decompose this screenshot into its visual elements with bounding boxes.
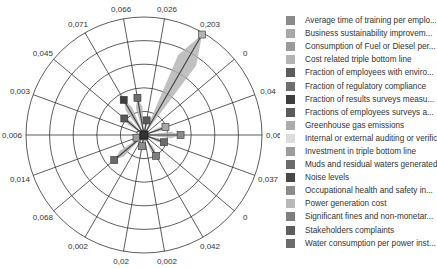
legend-swatch-icon (286, 186, 295, 195)
data-point-marker[interactable] (143, 117, 150, 124)
legend-item[interactable]: Greenhouse gas emissions (286, 119, 430, 132)
spoke-label: 0,071 (68, 20, 89, 29)
legend-label: Water consumption per power inst... (305, 239, 436, 248)
data-point-marker[interactable] (121, 115, 128, 122)
spoke-label: 0,066 (111, 5, 132, 14)
legend-label: Muds and residual waters generated (305, 160, 437, 169)
data-point-marker[interactable] (177, 132, 184, 139)
data-point-marker[interactable] (160, 139, 167, 146)
center-marker (140, 131, 148, 139)
legend-label: Noise levels (305, 173, 349, 182)
spoke-label: 0 (243, 213, 248, 222)
legend-label: Power generation cost (305, 199, 386, 208)
data-point-marker[interactable] (120, 96, 127, 103)
legend-swatch-icon (286, 121, 295, 130)
spoke-label: 0,064 (266, 131, 280, 140)
legend-swatch-icon (286, 147, 295, 156)
legend-swatch-icon (286, 108, 295, 117)
legend-item[interactable]: Stakeholders complaints (286, 224, 430, 237)
legend-label: Fraction of employees with enviro... (305, 68, 434, 77)
legend-swatch-icon (286, 68, 295, 77)
spoke-label: 0,003 (10, 87, 31, 96)
legend-label: Internal or external auditing or verific (305, 134, 437, 143)
grid-spoke (144, 135, 234, 211)
legend-item[interactable]: Significant fines and non-monetar... (286, 210, 430, 223)
legend-item[interactable]: Consumption of Fuel or Diesel per... (286, 40, 430, 53)
spoke-label: 0,02 (113, 257, 129, 266)
legend-swatch-icon (286, 29, 295, 38)
legend-item[interactable]: Occupational health and safety in... (286, 184, 430, 197)
data-point-marker[interactable] (139, 143, 146, 150)
legend-item[interactable]: Business sustainability improvem... (286, 27, 430, 40)
spoke-label: 0,203 (200, 20, 221, 29)
legend-label: Average time of training per emplo... (305, 16, 437, 25)
legend-swatch-icon (286, 55, 295, 64)
spoke-label: 0,037 (258, 175, 279, 184)
legend-swatch-icon (286, 226, 295, 235)
legend-swatch-icon (286, 239, 295, 248)
legend-item[interactable]: Fraction of employees with enviro... (286, 66, 430, 79)
legend-swatch-icon (286, 212, 295, 221)
legend-label: Business sustainability improvem... (305, 29, 432, 38)
data-point-marker[interactable] (162, 124, 169, 131)
spoke-label: 0,04 (260, 87, 276, 96)
legend-label: Significant fines and non-monetar... (305, 212, 433, 221)
spoke-label: 0,002 (157, 257, 178, 266)
radar-chart: 0,0640,0400,2030,0260,0660,0710,0450,003… (0, 0, 280, 268)
legend-item[interactable]: Power generation cost (286, 197, 430, 210)
legend-item[interactable]: Water consumption per power inst... (286, 237, 430, 250)
legend-item[interactable]: Fractions of employees surveys a... (286, 106, 430, 119)
spoke-label: 0,002 (68, 242, 89, 251)
data-point-marker[interactable] (153, 152, 160, 159)
legend-item[interactable]: Internal or external auditing or verific (286, 132, 430, 145)
legend-label: Investment in triple bottom line (305, 147, 416, 156)
spoke-label: 0,068 (33, 213, 54, 222)
legend-label: Greenhouse gas emissions (305, 121, 404, 130)
data-point-marker[interactable] (111, 156, 118, 163)
legend-swatch-icon (286, 16, 295, 25)
data-point-marker[interactable] (134, 94, 141, 101)
legend-swatch-icon (286, 82, 295, 91)
legend-label: Fraction of results surveys measu... (305, 95, 434, 104)
legend-item[interactable]: Muds and residual waters generated (286, 158, 430, 171)
legend-swatch-icon (286, 95, 295, 104)
spoke-label: 0 (243, 49, 248, 58)
legend-swatch-icon (286, 199, 295, 208)
legend-swatch-icon (286, 134, 295, 143)
legend-item[interactable]: Fraction of regulatory compliance (286, 79, 430, 92)
legend-label: Fractions of employees surveys a... (305, 108, 434, 117)
spoke-label: 0,014 (10, 175, 31, 184)
legend-item[interactable]: Noise levels (286, 171, 430, 184)
legend-label: Stakeholders complaints (305, 226, 394, 235)
spoke-label: 0,045 (33, 49, 54, 58)
spoke-label: 0,026 (157, 5, 178, 14)
legend-item[interactable]: Average time of training per emplo... (286, 14, 430, 27)
data-point-marker[interactable] (199, 31, 206, 38)
legend-label: Cost related triple bottom line (305, 55, 412, 64)
legend-swatch-icon (286, 160, 295, 169)
legend-item[interactable]: Investment in triple bottom line (286, 145, 430, 158)
legend: Average time of training per emplo...Bus… (286, 14, 430, 250)
legend-label: Occupational health and safety in... (305, 186, 433, 195)
legend-label: Fraction of regulatory compliance (305, 82, 426, 91)
data-point-marker[interactable] (133, 134, 140, 141)
spoke-label: 0,006 (2, 131, 23, 140)
spoke-label: 0,042 (200, 242, 221, 251)
legend-label: Consumption of Fuel or Diesel per... (305, 42, 436, 51)
legend-swatch-icon (286, 173, 295, 182)
legend-swatch-icon (286, 42, 295, 51)
legend-item[interactable]: Fraction of results surveys measu... (286, 93, 430, 106)
legend-item[interactable]: Cost related triple bottom line (286, 53, 430, 66)
